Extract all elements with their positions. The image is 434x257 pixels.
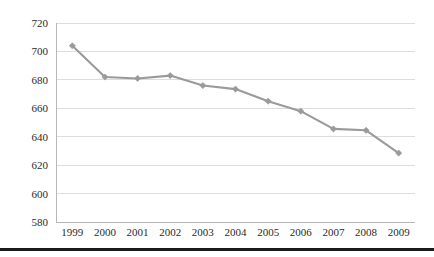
y-tick-label: 720 [32, 17, 49, 29]
x-tick-label: 2001 [127, 226, 149, 238]
x-tick-label: 2002 [159, 226, 181, 238]
ytick-labels-group: 720700680660640620600580 [32, 17, 49, 228]
data-point-marker [200, 82, 206, 88]
x-tick-label: 2005 [257, 226, 280, 238]
x-tick-label: 1999 [61, 226, 84, 238]
data-point-marker [232, 86, 238, 92]
x-tick-label: 2004 [225, 226, 248, 238]
data-point-marker [167, 72, 173, 78]
data-point-marker [265, 98, 271, 104]
line-chart-plot: 720700680660640620600580 199920002001200… [0, 0, 434, 257]
xtick-labels-group: 1999200020012002200320042005200620072008… [61, 226, 410, 238]
gridlines-group [56, 23, 415, 222]
chart-figure: 720700680660640620600580 199920002001200… [0, 0, 434, 257]
series-group [69, 43, 402, 157]
bottom-divider [0, 248, 434, 251]
x-tick-label: 2009 [388, 226, 411, 238]
y-tick-label: 600 [32, 188, 49, 200]
y-tick-label: 620 [32, 159, 49, 171]
x-tick-label: 2008 [355, 226, 378, 238]
x-tick-label: 2000 [94, 226, 117, 238]
y-tick-label: 640 [32, 131, 49, 143]
x-tick-label: 2007 [322, 226, 345, 238]
y-tick-label: 680 [32, 74, 49, 86]
axis-group [56, 23, 415, 222]
y-tick-label: 580 [32, 216, 49, 228]
y-tick-label: 700 [32, 45, 49, 57]
x-tick-label: 2006 [290, 226, 313, 238]
x-tick-label: 2003 [192, 226, 215, 238]
y-tick-label: 660 [32, 102, 49, 114]
data-point-marker [134, 75, 140, 81]
